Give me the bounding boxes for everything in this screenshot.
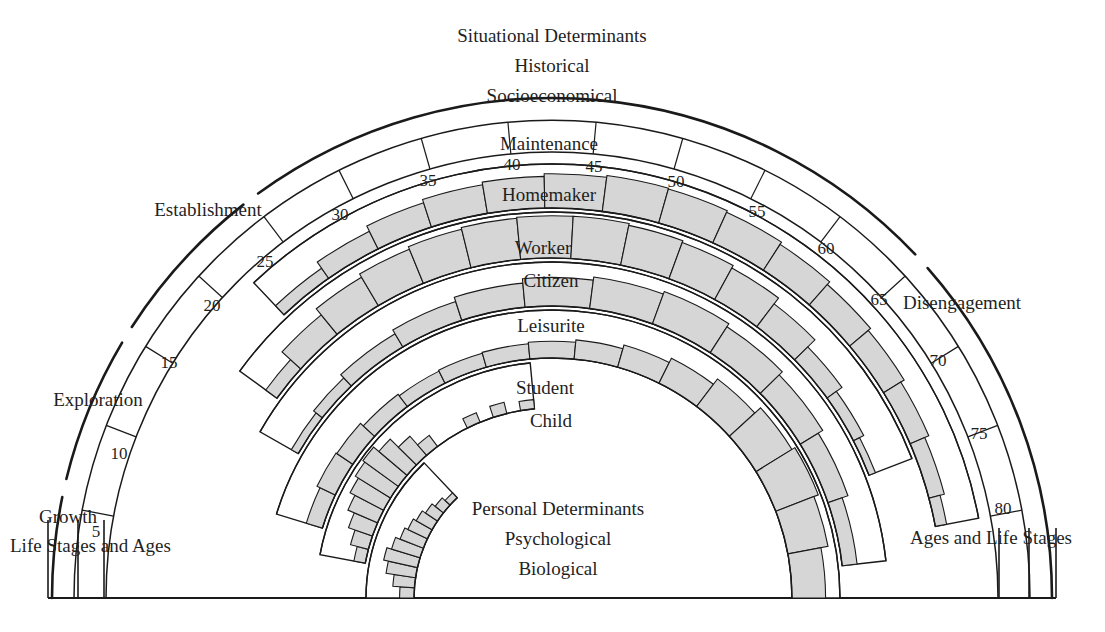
role-label-worker: Worker xyxy=(515,237,572,259)
age-tick-30: 30 xyxy=(332,205,349,225)
age-tick-70: 70 xyxy=(930,351,947,371)
life-stage-label-establishment: Establishment xyxy=(154,199,262,221)
axis-label-left: Life Stages and Ages xyxy=(10,535,171,557)
life-stage-label-maintenance: Maintenance xyxy=(500,133,598,155)
center-caption-line-1: Personal Determinants xyxy=(472,498,645,520)
age-tick-40: 40 xyxy=(504,155,521,175)
life-stage-label-disengagement: Disengagement xyxy=(903,292,1021,314)
age-tick-35: 35 xyxy=(420,171,437,191)
age-tick-75: 75 xyxy=(971,424,988,444)
top-caption-line-1: Situational Determinants xyxy=(457,25,646,47)
age-tick-65: 65 xyxy=(871,290,888,310)
age-tick-5: 5 xyxy=(92,522,101,542)
age-tick-10: 10 xyxy=(111,444,128,464)
age-tick-25: 25 xyxy=(257,252,274,272)
role-label-student: Student xyxy=(516,377,574,399)
age-tick-15: 15 xyxy=(161,353,178,373)
life-stage-label-growth: Growth xyxy=(39,506,97,528)
age-tick-80: 80 xyxy=(995,499,1012,519)
age-tick-60: 60 xyxy=(818,239,835,259)
role-label-homemaker: Homemaker xyxy=(502,184,596,206)
life-career-rainbow-figure: Situational Determinants Historical Soci… xyxy=(0,0,1105,632)
role-label-leisurite: Leisurite xyxy=(517,315,585,337)
center-caption-line-3: Biological xyxy=(518,558,597,580)
role-label-citizen: Citizen xyxy=(524,270,579,292)
axis-label-right: Ages and Life Stages xyxy=(910,527,1072,549)
age-tick-45: 45 xyxy=(586,157,603,177)
age-tick-20: 20 xyxy=(204,296,221,316)
age-tick-55: 55 xyxy=(749,202,766,222)
center-caption-line-2: Psychological xyxy=(505,528,612,550)
age-tick-50: 50 xyxy=(668,172,685,192)
top-caption-line-3: Socioeconomical xyxy=(487,85,618,107)
top-caption-line-2: Historical xyxy=(515,55,590,77)
role-label-child: Child xyxy=(530,410,572,432)
life-stage-label-exploration: Exploration xyxy=(53,389,143,411)
